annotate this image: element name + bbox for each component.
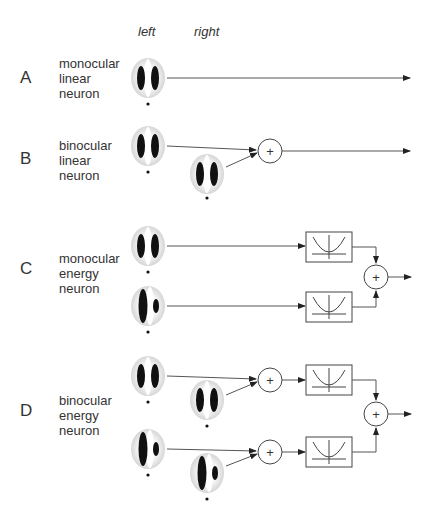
fixation-dot [146,330,149,333]
row-c-diagram: + [131,226,411,334]
squaring-nonlinearity [306,437,352,467]
receptive-field-even [131,226,165,266]
input-arrow [167,376,256,379]
diagram-canvas: + + + + [0,0,431,520]
squaring-nonlinearity [306,232,352,262]
plus-icon: + [266,373,274,388]
receptive-field-left-odd [131,429,165,469]
fixation-dot [146,400,149,403]
receptive-field-right-even [190,380,224,420]
plus-icon: + [266,445,274,460]
fixation-dot [146,473,149,476]
fixation-dot [205,196,208,199]
input-arrow [226,382,257,395]
input-arrow [167,449,256,451]
input-arrow [226,454,257,466]
receptive-field-left-even [131,356,165,396]
input-arrow [226,153,257,167]
input-arrow [167,146,256,150]
receptive-field-left [131,58,165,98]
receptive-field-left [131,126,165,166]
receptive-field-right [190,154,224,194]
plus-icon: + [372,407,380,422]
connector-arrow [352,380,376,400]
connector-arrow [352,291,376,307]
fixation-dot [205,497,208,500]
connector-arrow [352,247,376,263]
row-a-diagram [131,58,410,106]
fixation-dot [146,270,149,273]
connector-arrow [352,428,376,452]
row-b-diagram: + [131,126,410,200]
fixation-dot [146,170,149,173]
squaring-nonlinearity [306,365,352,395]
fixation-dot [146,102,149,105]
receptive-field-odd [131,286,165,326]
squaring-nonlinearity [306,292,352,322]
plus-icon: + [372,270,380,285]
row-d-diagram: + + + [131,356,411,501]
plus-icon: + [266,144,274,159]
receptive-field-right-odd [190,453,224,493]
fixation-dot [205,424,208,427]
